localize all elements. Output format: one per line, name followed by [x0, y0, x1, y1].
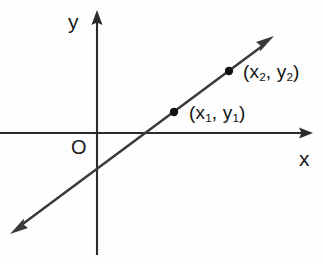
y-axis-label: y	[68, 11, 79, 32]
point-label-2-sub-x: 2	[259, 70, 266, 83]
point-label-2-suffix: )	[293, 61, 300, 82]
coordinate-plane-figure: y x O (x1, y1) (x2, y2)	[0, 0, 323, 264]
figure-canvas	[0, 0, 323, 264]
plotted-line	[10, 36, 274, 234]
point-label-1: (x1, y1)	[189, 103, 246, 122]
point-label-1-sub-x: 1	[205, 111, 212, 124]
point-label-1-sub-y: 1	[232, 111, 239, 124]
point-label-2-prefix: (x	[243, 61, 259, 82]
point-label-1-suffix: )	[239, 102, 246, 123]
point-label-1-mid: , y	[212, 102, 233, 123]
point-marker-1	[170, 108, 178, 116]
point-label-2-sub-y: 2	[286, 70, 293, 83]
point-marker-2	[225, 67, 233, 75]
x-axis-label: x	[299, 148, 310, 169]
x-axis	[0, 128, 313, 139]
point-label-2-mid: , y	[266, 61, 287, 82]
point-label-1-prefix: (x	[189, 102, 205, 123]
origin-label: O	[71, 137, 87, 157]
point-label-2: (x2, y2)	[243, 62, 300, 81]
